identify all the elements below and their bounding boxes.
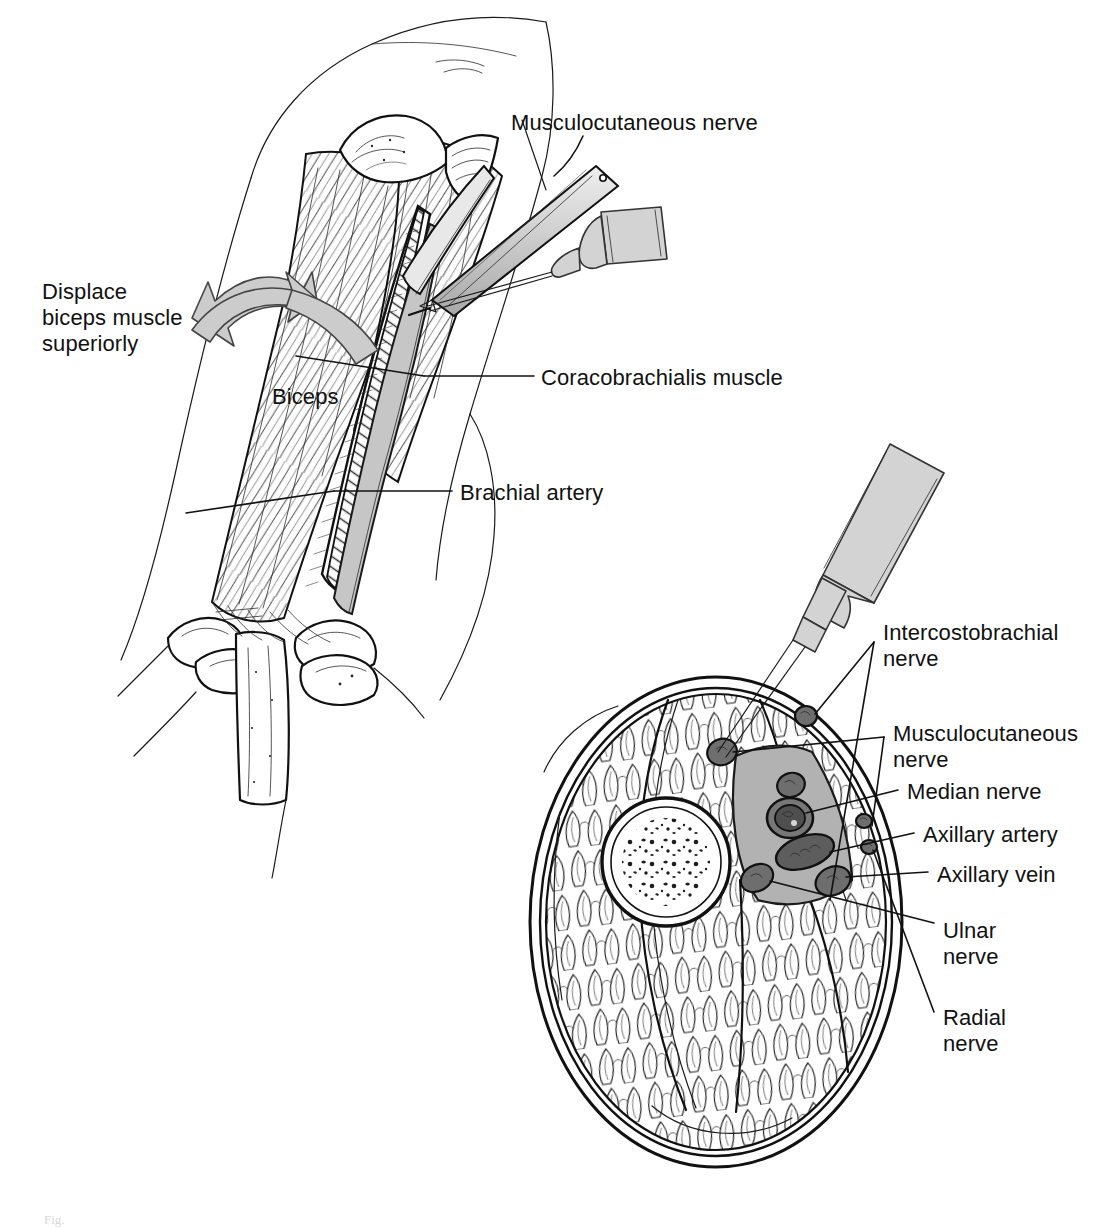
label-biceps: Biceps: [272, 384, 339, 410]
label-coracobrachialis-muscle: Coracobrachialis muscle: [541, 365, 783, 391]
leader-musculocutaneous-upper: [554, 136, 583, 176]
label-intercostobrachial-nerve: Intercostobrachial nerve: [883, 620, 1058, 672]
anatomical-illustration: [0, 0, 1107, 1228]
label-brachial-artery: Brachial artery: [460, 480, 603, 506]
illustration-page: Musculocutaneous nerve Displace biceps m…: [0, 0, 1107, 1228]
median-nerve-section: [767, 798, 813, 838]
humerus: [602, 798, 730, 926]
label-radial-nerve: Radial nerve: [943, 1005, 1006, 1057]
label-displace-biceps-superiorly: Displace biceps muscle superiorly: [42, 279, 183, 357]
intercostobrachial-nerve-section: [795, 706, 817, 726]
label-ulnar-nerve: Ulnar nerve: [943, 918, 999, 970]
cross-section-drawing: [530, 444, 944, 1167]
elbow-condyles: [118, 618, 424, 878]
label-axillary-artery: Axillary artery: [923, 822, 1058, 848]
bone-marrow: [622, 818, 710, 906]
label-musculocutaneous-nerve-lower: Musculocutaneous nerve: [893, 721, 1078, 773]
figure-caption-fragment: Fig.: [44, 1212, 65, 1228]
label-median-nerve: Median nerve: [907, 779, 1042, 805]
label-axillary-vein: Axillary vein: [937, 862, 1056, 888]
leader-intercostobrachial: [815, 642, 874, 714]
label-musculocutaneous-nerve-upper: Musculocutaneous nerve: [511, 110, 758, 136]
